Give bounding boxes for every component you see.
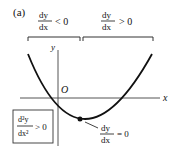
figure-label: (a) <box>13 6 26 19</box>
stationary-label: dy dx = 0 <box>100 123 129 145</box>
stationary-numerator: dy <box>101 123 111 133</box>
right-bracket <box>83 37 153 41</box>
left-denominator: dx <box>39 22 49 32</box>
left-region-label: dy dx < 0 <box>38 10 68 32</box>
y-axis-label: y <box>50 42 55 52</box>
concavity-numerator: d²y <box>18 115 28 124</box>
parabola-curve <box>28 54 152 119</box>
right-numerator: dy <box>102 10 112 20</box>
minimum-point <box>78 117 83 122</box>
pointer-line <box>85 122 98 128</box>
left-numerator: dy <box>39 10 49 20</box>
left-bracket <box>28 37 80 41</box>
left-relation: < 0 <box>55 16 68 27</box>
right-relation: > 0 <box>119 16 132 27</box>
right-denominator: dx <box>102 22 112 32</box>
parabola-diagram: (a) dy dx < 0 dy dx > 0 y x O dy dx = 0 … <box>0 0 176 153</box>
right-region-label: dy dx > 0 <box>101 10 132 32</box>
stationary-relation: = 0 <box>117 129 129 139</box>
concavity-box: d²y dx² > 0 <box>13 110 53 143</box>
origin-label: O <box>61 84 68 95</box>
x-axis-label: x <box>162 92 168 103</box>
concavity-relation: > 0 <box>35 122 47 132</box>
concavity-denominator: dx² <box>18 129 29 138</box>
stationary-denominator: dx <box>101 135 111 145</box>
